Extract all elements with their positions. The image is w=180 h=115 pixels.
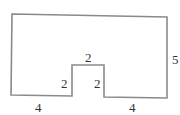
label-notch-top: 2 bbox=[85, 50, 92, 65]
label-right-side: 5 bbox=[172, 52, 179, 67]
label-bottom-right: 4 bbox=[129, 100, 136, 115]
label-notch-right: 2 bbox=[94, 76, 101, 91]
floor-plan-diagram: 4 2 2 2 4 5 bbox=[0, 0, 180, 115]
label-bottom-left: 4 bbox=[35, 100, 42, 115]
label-notch-left: 2 bbox=[61, 76, 68, 91]
